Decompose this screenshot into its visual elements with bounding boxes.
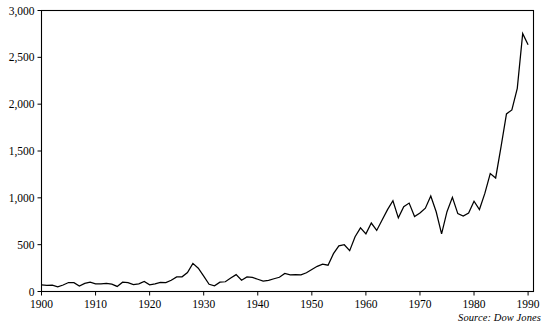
x-tick-label: 1900	[30, 298, 53, 310]
x-tick-label: 1960	[354, 298, 377, 310]
x-tick-label: 1910	[84, 298, 107, 310]
y-tick-label: 2,500	[9, 51, 35, 64]
x-tick-label: 1940	[246, 298, 269, 310]
x-tick-label: 1920	[138, 298, 161, 310]
dow-jones-line-chart: 05001,0001,5002,0002,5003,00019001910192…	[0, 0, 547, 335]
y-tick-label: 1,500	[9, 145, 35, 158]
x-tick-label: 1990	[517, 298, 540, 310]
x-tick-label: 1970	[408, 298, 431, 310]
chart-figure: 05001,0001,5002,0002,5003,00019001910192…	[0, 0, 547, 335]
x-tick-label: 1980	[463, 298, 486, 310]
x-tick-label: 1950	[300, 298, 323, 310]
source-note: Source: Dow Jones	[458, 312, 541, 323]
plot-frame	[42, 11, 534, 292]
y-tick-label: 0	[29, 286, 35, 298]
figure-caption	[2, 324, 402, 335]
series-line	[42, 34, 529, 287]
x-tick-label: 1930	[192, 298, 215, 310]
y-tick-label: 500	[17, 239, 35, 251]
y-tick-label: 3,000	[9, 5, 35, 18]
y-tick-label: 1,000	[9, 192, 35, 205]
plot-area: 05001,0001,5002,0002,5003,00019001910192…	[0, 0, 547, 335]
y-tick-label: 2,000	[9, 98, 35, 111]
